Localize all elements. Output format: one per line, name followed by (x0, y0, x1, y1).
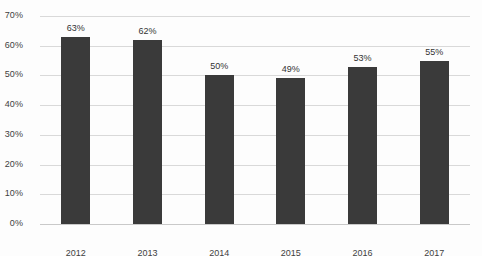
bar[interactable] (276, 78, 305, 224)
bar[interactable] (348, 67, 377, 224)
bar-group: 49% (255, 16, 327, 224)
x-axis-tick-label: 2012 (40, 248, 112, 256)
bar-group: 63% (40, 16, 112, 224)
bar-group: 53% (327, 16, 399, 224)
bar-value-label: 63% (40, 23, 112, 33)
bar-group: 62% (112, 16, 184, 224)
bar[interactable] (61, 37, 90, 224)
x-axis-tick-label: 2016 (327, 248, 399, 256)
x-axis-tick-label: 2015 (255, 248, 327, 256)
bar-group: 50% (183, 16, 255, 224)
bar-value-label: 49% (255, 64, 327, 74)
y-axis-tick-label: 70% (0, 10, 23, 20)
bar[interactable] (420, 61, 449, 224)
bar-value-label: 62% (112, 26, 184, 36)
bar[interactable] (205, 75, 234, 224)
bar-value-label: 55% (398, 47, 470, 57)
bar[interactable] (133, 40, 162, 224)
bar-chart: 0%10%20%30%40%50%60%70% 63%201262%201350… (0, 0, 482, 256)
y-axis-tick-label: 0% (0, 218, 23, 228)
y-axis-tick-label: 30% (0, 129, 23, 139)
bars-layer: 63%201262%201350%201449%201553%201655%20… (40, 16, 470, 224)
bar-value-label: 53% (327, 53, 399, 63)
axis-line-baseline (40, 224, 470, 225)
bar-group: 55% (398, 16, 470, 224)
x-axis-tick-label: 2013 (112, 248, 184, 256)
y-axis-tick-label: 10% (0, 188, 23, 198)
y-axis-tick-label: 50% (0, 69, 23, 79)
bar-value-label: 50% (183, 61, 255, 71)
x-axis-tick-label: 2017 (398, 248, 470, 256)
y-axis-tick-label: 20% (0, 159, 23, 169)
y-axis-tick-label: 60% (0, 40, 23, 50)
y-axis-tick-label: 40% (0, 99, 23, 109)
x-axis-tick-label: 2014 (183, 248, 255, 256)
